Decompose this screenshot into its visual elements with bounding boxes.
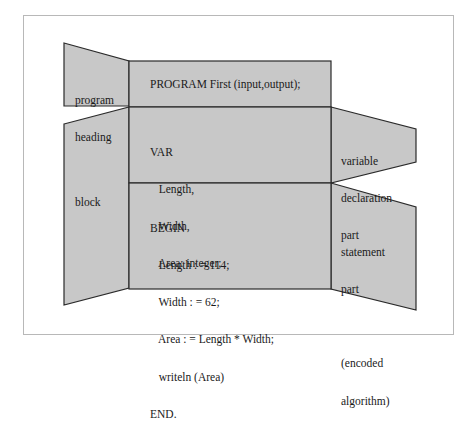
code-line: Length,	[150, 183, 222, 195]
code-line: END.	[150, 408, 274, 420]
program-heading-label: program heading	[75, 69, 114, 156]
label-spacer	[341, 320, 390, 332]
code-line: Area : = Length * Width;	[150, 333, 274, 345]
label-line: algorithm)	[341, 395, 390, 407]
label-line: (encoded	[341, 357, 390, 369]
label-line: program	[75, 94, 114, 106]
code-line: Width : = 62;	[150, 296, 274, 308]
code-line: Length : = 114;	[150, 259, 274, 271]
code-line: BEGIN	[150, 222, 274, 234]
block-label: block	[75, 196, 101, 208]
label-line: statement	[341, 246, 390, 258]
label-line: variable	[341, 155, 392, 167]
code-line: VAR	[150, 146, 222, 158]
code-line: writeln (Area)	[150, 371, 274, 383]
label-line: part	[341, 283, 390, 295]
statement-part-label: statement part (encoded algorithm)	[341, 221, 390, 419]
program-heading-code: PROGRAM First (input,output);	[150, 78, 300, 90]
statements-code: BEGIN Length : = 114; Width : = 62; Area…	[150, 197, 274, 422]
label-line: heading	[75, 131, 114, 143]
label-line: declaration	[341, 192, 392, 204]
